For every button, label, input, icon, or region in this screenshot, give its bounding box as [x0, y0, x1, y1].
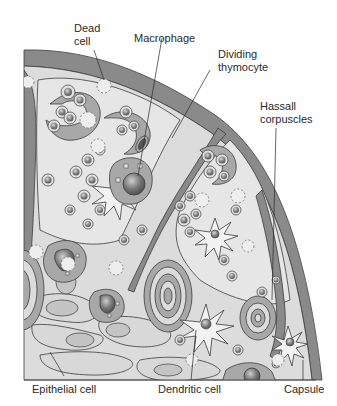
epithelial-cell-label: Epithelial cell [32, 383, 96, 396]
dead-cell-label: Dead cell [74, 22, 100, 48]
capsule-label: Capsule [284, 383, 324, 396]
thymus-diagram: Dead cell Macrophage Dividing thymocyte … [0, 0, 337, 406]
hassall-corpuscles-label: Hassall corpuscles [260, 100, 313, 126]
macrophage-label: Macrophage [134, 32, 195, 45]
dividing-thymocyte-label: Dividing thymocyte [218, 48, 268, 74]
dendritic-cell-label: Dendritic cell [158, 383, 221, 396]
thymus-illustration [0, 0, 337, 406]
